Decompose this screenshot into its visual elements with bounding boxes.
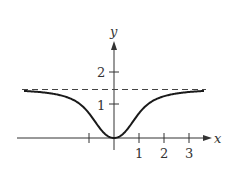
- x-tick-label-2: 2: [160, 146, 168, 161]
- y-tick-label-1: 1: [97, 98, 105, 113]
- x-axis-arrow-icon: [203, 135, 212, 141]
- y-axis-arrow-icon: [111, 41, 117, 50]
- y-axis-label: y: [109, 24, 118, 39]
- x-tick-label-3: 3: [185, 146, 193, 161]
- y-tick-label-2: 2: [97, 65, 105, 80]
- x-axis-label: x: [214, 131, 222, 146]
- chart: 1 2 3 2 1 x y: [0, 0, 227, 172]
- x-tick-label-1: 1: [135, 146, 143, 161]
